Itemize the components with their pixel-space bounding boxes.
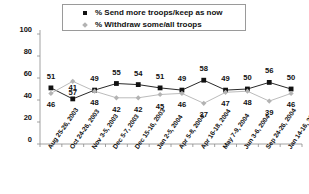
line-chart: % Send more troops/keep as now % Withdra…	[0, 0, 309, 194]
data-point-marker	[201, 78, 206, 83]
data-point-marker	[157, 92, 162, 97]
data-point-marker	[114, 95, 119, 100]
series-line-2	[51, 81, 291, 103]
data-point-marker	[48, 91, 53, 96]
data-point-marker	[70, 97, 75, 102]
data-point-marker	[289, 87, 294, 92]
data-point-marker	[136, 95, 141, 100]
series-line-1	[51, 80, 291, 99]
series-lines	[51, 80, 291, 103]
data-point-marker	[158, 86, 163, 91]
data-point-marker	[49, 86, 54, 91]
data-point-marker	[288, 91, 293, 96]
data-point-marker	[114, 81, 119, 86]
data-point-marker	[267, 80, 272, 85]
data-point-marker	[136, 82, 141, 87]
data-point-marker	[70, 79, 75, 84]
data-point-marker	[201, 101, 206, 106]
series-markers	[48, 78, 293, 106]
data-point-marker	[267, 99, 272, 104]
x-axis: Aug 25-26, 2003Oct 24-26, 2003Nov 3-5, 2…	[0, 143, 309, 194]
